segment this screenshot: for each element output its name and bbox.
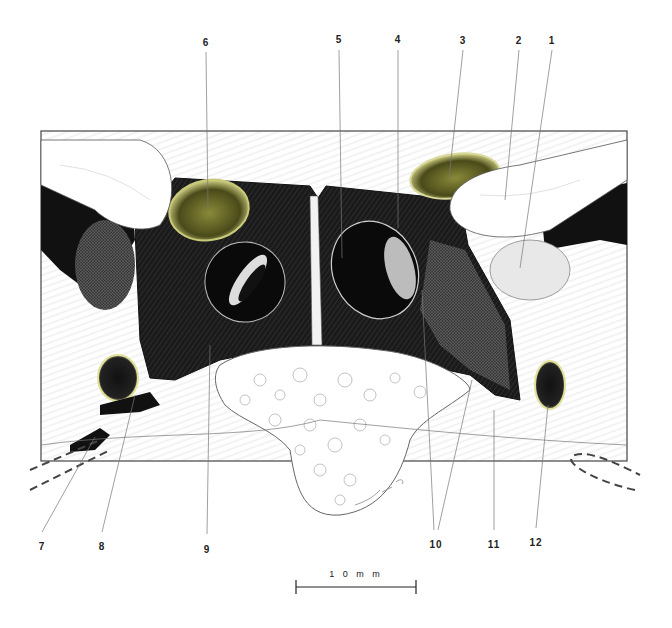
label-3: 3 bbox=[460, 35, 467, 46]
label-8: 8 bbox=[99, 541, 106, 552]
ostium-12 bbox=[535, 361, 565, 409]
label-1: 1 bbox=[549, 35, 556, 46]
left-lateral-structure bbox=[75, 220, 135, 310]
label-2: 2 bbox=[516, 35, 523, 46]
label-6: 6 bbox=[203, 37, 210, 48]
anatomical-figure bbox=[0, 0, 672, 628]
ostium-8 bbox=[98, 355, 138, 401]
label-4: 4 bbox=[395, 34, 402, 45]
scale-bar bbox=[296, 580, 416, 594]
label-10: 10 bbox=[429, 539, 442, 550]
right-lateral-structure bbox=[490, 240, 570, 300]
label-9: 9 bbox=[204, 544, 211, 555]
label-5: 5 bbox=[336, 34, 343, 45]
scale-bar-label: 1 0 m m bbox=[329, 569, 383, 579]
label-7: 7 bbox=[39, 541, 46, 552]
label-12: 12 bbox=[529, 537, 542, 548]
label-11: 11 bbox=[488, 539, 501, 550]
